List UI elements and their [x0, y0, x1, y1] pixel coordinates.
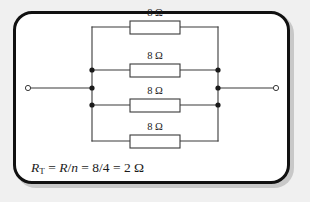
- formula-equals-2: =: [78, 160, 92, 175]
- formula-n-denominator: n: [71, 160, 78, 175]
- node-right-center: [215, 85, 220, 90]
- resistor-3-label: 8 Ω: [125, 85, 185, 96]
- resistor-4-label: 8 Ω: [125, 121, 185, 132]
- formula-result: 2 Ω: [124, 160, 144, 175]
- resistor-2-label: 8 Ω: [125, 50, 185, 61]
- right-terminal-icon: [273, 85, 278, 90]
- total-resistance-formula: RT = R/n = 8/4 = 2 Ω: [31, 160, 144, 176]
- resistor-1-body: [130, 21, 180, 34]
- resistor-2-body: [130, 64, 180, 77]
- formula-numeric-ratio: 8/4: [92, 160, 109, 175]
- node-left-lower: [89, 102, 94, 107]
- resistor-1-label: 8 Ω: [125, 7, 185, 18]
- figure-canvas: 8 Ω 8 Ω 8 Ω 8 Ω RT = R/n = 8/4 = 2 Ω: [0, 0, 310, 202]
- formula-r-symbol: R: [31, 160, 39, 175]
- resistor-3-body: [130, 99, 180, 112]
- node-left-center: [89, 85, 94, 90]
- node-right-upper: [215, 67, 220, 72]
- formula-equals-3: =: [110, 160, 124, 175]
- left-terminal-icon: [25, 85, 30, 90]
- formula-equals-1: =: [45, 160, 59, 175]
- resistor-4-body: [130, 135, 180, 148]
- node-left-upper: [89, 67, 94, 72]
- node-right-lower: [215, 102, 220, 107]
